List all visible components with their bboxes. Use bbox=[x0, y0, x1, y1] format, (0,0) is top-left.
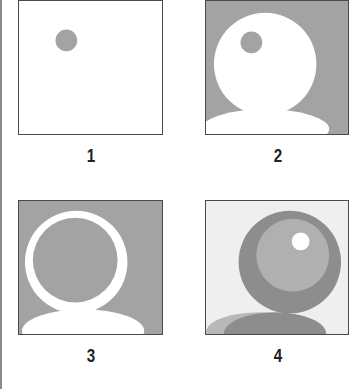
panel-1-label: 1 bbox=[75, 145, 107, 167]
panel-2-label: 2 bbox=[262, 145, 294, 167]
small-dot-icon bbox=[19, 1, 162, 134]
panel-3-label: 3 bbox=[75, 345, 107, 367]
ring-avatar-icon bbox=[19, 201, 162, 334]
figure-panel-2 bbox=[205, 0, 349, 135]
figure-panel-4 bbox=[205, 200, 349, 335]
avatar-head-icon bbox=[206, 1, 348, 134]
figure-panel-1 bbox=[18, 0, 163, 135]
panel-4-label: 4 bbox=[262, 345, 294, 367]
shaded-avatar-icon bbox=[206, 201, 348, 334]
figure-panel-3 bbox=[18, 200, 163, 335]
page-left-rule bbox=[0, 0, 2, 389]
